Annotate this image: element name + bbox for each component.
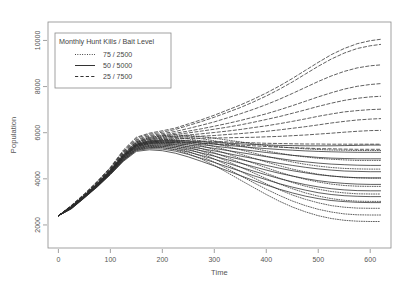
legend-label-0: 75 / 2500 <box>103 51 132 58</box>
x-axis: 0100200300400500600 <box>56 249 376 263</box>
legend-label-2: 25 / 7500 <box>103 73 132 80</box>
x-tick-label: 500 <box>312 256 324 263</box>
population-line-chart: 0100200300400500600 20004000600080001000… <box>0 0 404 297</box>
legend-label-1: 50 / 5000 <box>103 62 132 69</box>
series-line <box>58 109 380 216</box>
series-line <box>58 96 380 215</box>
series-line <box>58 148 380 222</box>
y-tick-label: 2000 <box>34 217 41 233</box>
chart-figure: 0100200300400500600 20004000600080001000… <box>0 0 404 297</box>
y-tick-label: 10000 <box>34 31 41 51</box>
y-axis-title: Population <box>9 117 18 153</box>
series-line <box>58 142 380 216</box>
legend: Monthly Hunt Kills / Bait Level75 / 2500… <box>55 33 171 88</box>
series-line <box>58 145 380 216</box>
x-tick-label: 400 <box>260 256 272 263</box>
y-tick-label: 6000 <box>34 125 41 141</box>
y-axis: 200040006000800010000 <box>34 31 47 233</box>
series-line <box>58 142 380 216</box>
legend-title: Monthly Hunt Kills / Bait Level <box>59 37 154 46</box>
series-line <box>58 146 380 215</box>
x-tick-label: 0 <box>56 256 60 263</box>
x-tick-label: 100 <box>105 256 117 263</box>
series-line <box>58 146 380 215</box>
series-line <box>58 145 380 216</box>
x-axis-title: Time <box>211 268 228 277</box>
y-tick-label: 4000 <box>34 171 41 187</box>
series-line <box>58 143 380 216</box>
series-line <box>58 142 380 215</box>
y-tick-label: 8000 <box>34 79 41 95</box>
x-tick-label: 600 <box>364 256 376 263</box>
x-tick-label: 200 <box>156 256 168 263</box>
x-tick-label: 300 <box>208 256 220 263</box>
